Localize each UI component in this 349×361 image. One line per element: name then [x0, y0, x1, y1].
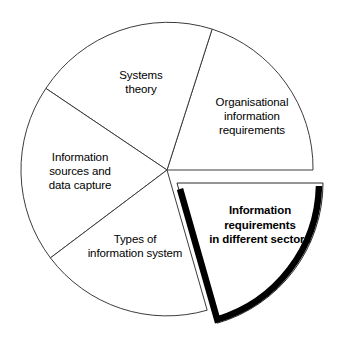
pie-label-types-of-information-system: Types of information system [72, 232, 198, 260]
diagram-canvas: Organisational information requirements … [0, 0, 349, 361]
pie-label-information-requirements-in-different-sectors: Information requirements in different se… [196, 203, 324, 247]
pie-label-information-sources-and-data-capture: Information sources and data capture [22, 150, 138, 192]
pie-label-systems-theory: Systems theory [88, 68, 194, 96]
pie-label-organisational-information-requirements: Organisational information requirements [192, 95, 312, 137]
